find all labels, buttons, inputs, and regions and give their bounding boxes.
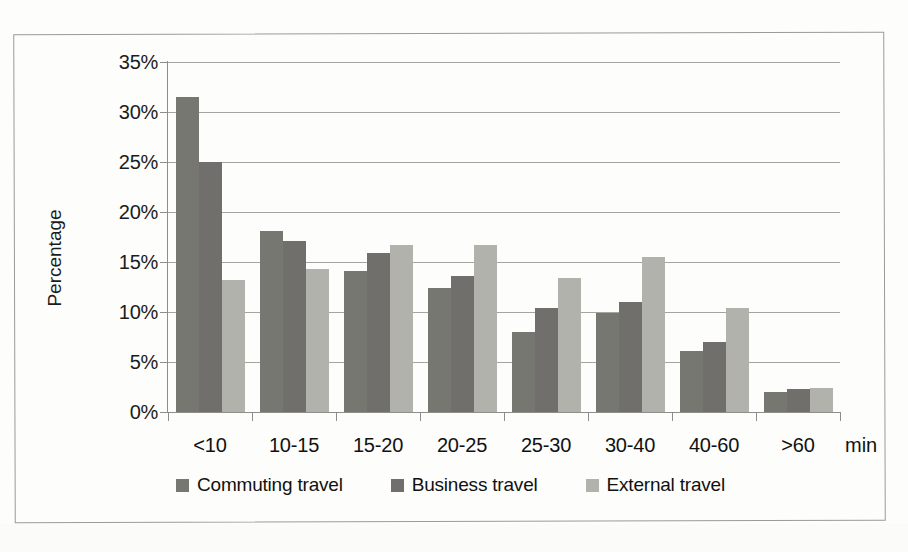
x-axis-tick-mark bbox=[840, 412, 841, 421]
x-axis-tick-label: 25-30 bbox=[521, 434, 571, 457]
bar-group bbox=[764, 62, 833, 412]
y-axis-tick-mark bbox=[160, 212, 168, 213]
y-axis-tick-mark bbox=[160, 62, 168, 63]
bar bbox=[451, 276, 474, 412]
y-axis-tick-label: 15% bbox=[96, 252, 158, 272]
bar bbox=[176, 97, 199, 412]
x-axis-tick-label: 15-20 bbox=[353, 434, 403, 457]
y-axis-title-text: Percentage bbox=[44, 168, 66, 348]
x-axis-tick-label: 20-25 bbox=[437, 434, 487, 457]
bar bbox=[199, 162, 222, 412]
legend-swatch-icon bbox=[391, 479, 404, 492]
bar bbox=[222, 280, 245, 412]
bar bbox=[260, 231, 283, 412]
bar bbox=[642, 257, 665, 412]
y-axis-tick-label: 10% bbox=[96, 302, 158, 322]
y-axis-tick-mark bbox=[160, 112, 168, 113]
bar bbox=[726, 308, 749, 412]
bar bbox=[596, 313, 619, 412]
y-axis-tick-mark bbox=[160, 412, 168, 413]
bar bbox=[787, 389, 810, 412]
x-axis-unit-label: min bbox=[845, 434, 877, 457]
legend-item: Commuting travel bbox=[176, 474, 343, 496]
y-axis-tick-mark bbox=[160, 362, 168, 363]
bar-group bbox=[260, 62, 329, 412]
legend-label: External travel bbox=[607, 474, 725, 496]
bar bbox=[535, 308, 558, 412]
bar bbox=[390, 245, 413, 412]
legend-label: Commuting travel bbox=[197, 474, 343, 496]
plot-area bbox=[168, 62, 840, 412]
y-axis-tick-label: 35% bbox=[96, 52, 158, 72]
y-axis-tick-labels: 0%5%10%15%20%25%30%35% bbox=[96, 0, 158, 552]
y-axis-title: Percentage bbox=[18, 0, 40, 168]
chart-figure: Percentage 0%5%10%15%20%25%30%35% <1010-… bbox=[0, 0, 908, 552]
x-axis-tick-label: 10-15 bbox=[269, 434, 319, 457]
legend-label: Business travel bbox=[412, 474, 538, 496]
scan-background-tint bbox=[0, 524, 908, 552]
x-axis-tick-mark bbox=[168, 412, 169, 421]
x-axis-tick-mark bbox=[420, 412, 421, 421]
legend-swatch-icon bbox=[586, 479, 599, 492]
legend-item: Business travel bbox=[391, 474, 538, 496]
bar bbox=[306, 269, 329, 412]
bar bbox=[703, 342, 726, 412]
x-axis-tick-label: 40-60 bbox=[689, 434, 739, 457]
bar bbox=[428, 288, 451, 412]
bar-group bbox=[596, 62, 665, 412]
bar bbox=[344, 271, 367, 412]
x-axis-tick-mark bbox=[336, 412, 337, 421]
bar bbox=[512, 332, 535, 412]
x-axis-tick-mark bbox=[504, 412, 505, 421]
x-axis-tick-mark bbox=[756, 412, 757, 421]
y-axis-tick-label: 20% bbox=[96, 202, 158, 222]
bar bbox=[619, 302, 642, 412]
y-axis-tick-label: 5% bbox=[96, 352, 158, 372]
x-axis-tick-mark bbox=[588, 412, 589, 421]
y-axis-tick-label: 25% bbox=[96, 152, 158, 172]
y-axis-tick-label: 30% bbox=[96, 102, 158, 122]
y-axis-tick-mark bbox=[160, 262, 168, 263]
bar-group bbox=[680, 62, 749, 412]
y-axis-tick-label: 0% bbox=[96, 402, 158, 422]
y-axis-tick-mark bbox=[160, 162, 168, 163]
bar bbox=[367, 253, 390, 412]
legend-swatch-icon bbox=[176, 479, 189, 492]
bar bbox=[558, 278, 581, 412]
x-axis-tick-label: <10 bbox=[193, 434, 226, 457]
bar bbox=[283, 241, 306, 412]
x-axis-tick-label: 30-40 bbox=[605, 434, 655, 457]
x-axis-tick-mark bbox=[672, 412, 673, 421]
bar bbox=[764, 392, 787, 412]
legend-item: External travel bbox=[586, 474, 725, 496]
bar bbox=[680, 351, 703, 412]
bar-group bbox=[512, 62, 581, 412]
bar-group bbox=[344, 62, 413, 412]
x-axis-tick-label: >60 bbox=[781, 434, 814, 457]
bar bbox=[810, 388, 833, 412]
bar-group bbox=[428, 62, 497, 412]
bar-group bbox=[176, 62, 245, 412]
bar bbox=[474, 245, 497, 412]
x-axis-tick-mark bbox=[252, 412, 253, 421]
chart-legend: Commuting travelBusiness travelExternal … bbox=[176, 474, 725, 496]
y-axis-tick-mark bbox=[160, 312, 168, 313]
